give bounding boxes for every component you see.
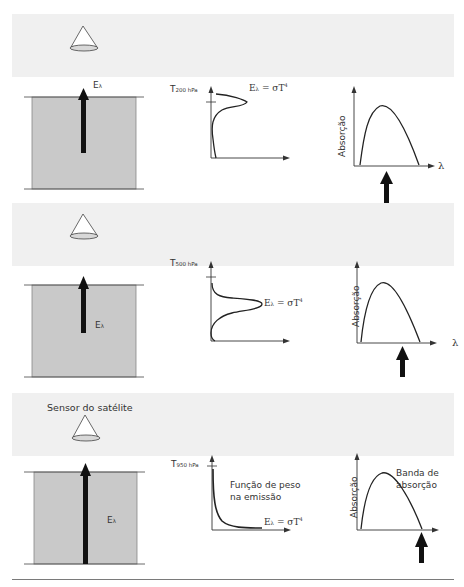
band-position-arrow-icon [380,171,393,203]
pressure-level-label: T500 hPa [170,259,198,268]
satellite-sensor-icon [70,26,98,51]
emission-label: Eλ [107,516,116,525]
band-position-arrow-icon [415,532,428,563]
absorption-axis-label: Absorção [352,285,361,327]
absorption-axis-label: Absorção [350,476,359,518]
pressure-level-label: T950 hPa [171,460,199,469]
panel-500hpa: Eλ T500 hPa Eλ = σT4 Absorção λ [12,203,454,366]
panel-200hpa: Eλ T200 hPa Eλ = σT4 Absorção λ [12,14,454,177]
panel-950hpa: Sensor do satélite Eλ T950 hPa Função de… [12,393,454,556]
pressure-level-label: T200 hPa [170,85,198,94]
stefan-boltzmann-equation: Eλ = σT4 [249,83,288,93]
weighting-function-note: Função de peso na emissão [230,480,300,503]
stefan-boltzmann-equation: Eλ = σT4 [264,298,303,308]
absorption-plot [355,453,440,533]
absorption-plot [355,261,438,346]
panel-200hpa-graphics [0,14,464,189]
emission-label: Eλ [93,81,102,90]
band-position-arrow-icon [396,346,409,377]
satellite-sensor-icon [70,214,98,239]
wavelength-axis-label: λ [452,338,458,348]
sensor-label: Sensor do satélite [47,402,133,414]
wavelength-axis-label: λ [438,161,444,171]
bottom-rule [12,579,454,580]
emission-label: Eλ [95,321,104,330]
panel-500hpa-graphics [0,203,464,378]
weighting-function-plot [206,86,290,161]
absorption-plot [352,86,436,169]
satellite-sensor-icon [72,415,100,441]
stefan-boltzmann-equation: Eλ = σT4 [264,517,303,527]
absorption-band-note: Banda de absorção [396,468,439,491]
absorption-axis-label: Absorção [338,115,347,157]
